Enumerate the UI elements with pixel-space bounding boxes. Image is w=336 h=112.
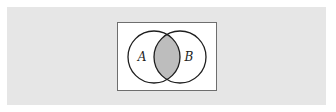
venn-diagram: A B <box>0 0 336 112</box>
set-b-label: B <box>184 50 194 64</box>
set-a-label: A <box>137 50 147 64</box>
